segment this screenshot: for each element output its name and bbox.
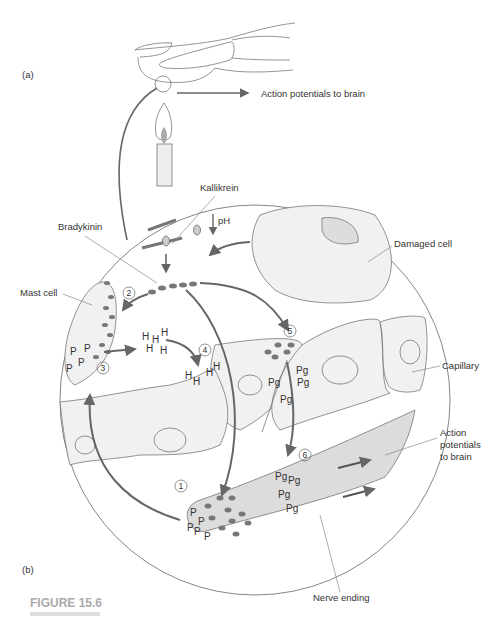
svg-text:Pg: Pg [296,365,308,376]
finger-illustration [135,23,295,92]
figure-title-underline [30,612,100,616]
svg-text:Pg: Pg [280,394,292,405]
step-4-marker: 4 [203,345,208,355]
nerve-ending-label: Nerve ending [313,592,370,603]
step-1-marker: 1 [179,481,184,491]
svg-text:H: H [161,327,168,338]
svg-text:H: H [160,345,167,356]
svg-text:P: P [70,346,77,357]
panel-b-label: (b) [22,564,34,575]
svg-text:P: P [190,507,197,518]
kallikrein-label: Kallikrein [200,182,239,193]
svg-text:H: H [142,331,149,342]
svg-text:P: P [66,363,73,374]
action-potentials-label-1: Action [440,427,466,438]
svg-text:H: H [146,343,153,354]
svg-text:H: H [193,376,200,387]
step-2-marker: 2 [127,288,132,298]
svg-text:P: P [78,357,85,368]
svg-text:Pg: Pg [286,503,298,514]
svg-text:H: H [185,370,192,381]
ph-label: pH [218,215,230,226]
svg-text:P: P [187,522,194,533]
svg-text:Pg: Pg [288,475,300,486]
svg-text:Pg: Pg [268,377,280,388]
capillary-label: Capillary [442,360,479,371]
bradykinin-label: Bradykinin [58,221,102,232]
figure-title: FIGURE 15.6 [30,596,102,610]
candle-icon [155,103,172,186]
pain-pathway-diagram: (a) Action potentials to brain [0,0,503,624]
svg-text:P: P [84,343,91,354]
svg-text:P: P [204,531,211,542]
mast-cell-label: Mast cell [20,287,57,298]
damaged-cell-label: Damaged cell [394,238,452,249]
svg-text:Pg: Pg [297,377,309,388]
action-potentials-label-3: to brain [440,451,472,462]
action-potentials-top-label: Action potentials to brain [261,88,365,99]
svg-text:Pg: Pg [275,471,287,482]
svg-text:P: P [194,526,201,537]
step-3-marker: 3 [101,363,106,373]
step-6-marker: 6 [303,450,308,460]
svg-text:Pg: Pg [278,489,290,500]
step-5-marker: 5 [288,326,293,336]
panel-a-label: (a) [22,69,34,80]
zoom-connector [119,88,157,240]
svg-text:H: H [213,361,220,372]
action-potentials-label-2: potentials [440,439,481,450]
